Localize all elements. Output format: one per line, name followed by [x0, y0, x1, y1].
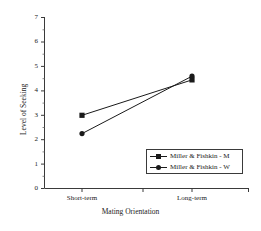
- legend-label-w: Miller & Fishkin - W: [170, 164, 230, 171]
- x-ticks: [82, 189, 249, 193]
- y-tick-label-2: 2: [24, 136, 38, 143]
- series-line-w: [82, 76, 192, 133]
- legend-marker-square-icon: [150, 152, 167, 161]
- x-axis-title: Mating Orientation: [0, 208, 261, 216]
- legend-label-m: Miller & Fishkin - M: [170, 153, 230, 160]
- data-point-m-short-term: [79, 113, 84, 118]
- y-axis-title: Level of Seeking: [20, 84, 28, 135]
- chart-figure: 0 1 2 3 4 5 6 7 Short-term Long-term Lev…: [0, 0, 261, 231]
- y-tick-label-1: 1: [24, 161, 38, 168]
- legend: Miller & Fishkin - M Miller & Fishkin - …: [146, 149, 243, 174]
- x-tick-label-short-term: Short-term: [47, 195, 117, 202]
- legend-marker-circle-icon: [150, 163, 167, 172]
- x-tick-label-long-term: Long-term: [157, 195, 227, 202]
- legend-item-w: Miller & Fishkin - W: [150, 162, 230, 173]
- y-tick-label-5: 5: [24, 63, 38, 70]
- data-point-w-long-term: [189, 74, 194, 79]
- y-tick-label-0: 0: [24, 185, 38, 192]
- legend-item-m: Miller & Fishkin - M: [150, 151, 230, 162]
- data-point-w-short-term: [79, 131, 84, 136]
- y-tick-label-6: 6: [24, 38, 38, 45]
- y-tick-label-7: 7: [24, 14, 38, 21]
